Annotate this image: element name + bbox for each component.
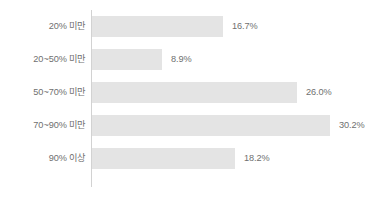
plot-area: 20% 미만16.7%20~50% 미만8.9%50~70% 미만26.0%70… [0, 0, 389, 197]
bar-value-label: 26.0% [306, 76, 332, 109]
category-label: 70~90% 미만 [0, 109, 85, 142]
category-label: 20~50% 미만 [0, 43, 85, 76]
bar-chart: 20% 미만16.7%20~50% 미만8.9%50~70% 미만26.0%70… [0, 0, 389, 197]
bar-value-label: 18.2% [244, 142, 270, 175]
category-label: 90% 이상 [0, 142, 85, 175]
bar-row: 70~90% 미만30.2% [0, 109, 389, 142]
bar-row: 20% 미만16.7% [0, 10, 389, 43]
category-label: 50~70% 미만 [0, 76, 85, 109]
bar-row: 90% 이상18.2% [0, 142, 389, 175]
bar-row: 50~70% 미만26.0% [0, 76, 389, 109]
bar-value-label: 8.9% [171, 43, 192, 76]
bar-value-label: 16.7% [232, 10, 258, 43]
category-label: 20% 미만 [0, 10, 85, 43]
bar [92, 148, 235, 169]
bar [92, 16, 223, 37]
bar [92, 115, 330, 136]
bar [92, 82, 297, 103]
bar-row: 20~50% 미만8.9% [0, 43, 389, 76]
bar-value-label: 30.2% [339, 109, 365, 142]
bar [92, 49, 162, 70]
